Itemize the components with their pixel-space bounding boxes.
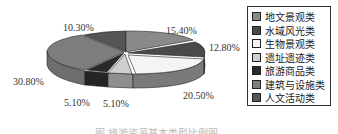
legend-item: 地文景观类 (252, 10, 327, 24)
slice-side-commodities (85, 71, 108, 87)
legend-swatch (252, 66, 261, 75)
legend-swatch (252, 39, 261, 48)
label-biological: 20.50% (183, 90, 214, 101)
legend-item: 水域风光类 (252, 24, 327, 38)
label-landform: 15.40% (166, 25, 197, 36)
legend-swatch (252, 53, 261, 62)
legend-swatch (252, 93, 261, 102)
label-humanistic: 10.30% (63, 22, 94, 33)
legend-swatch (252, 26, 261, 35)
legend-item: 建筑与设施类 (252, 78, 327, 92)
legend-item: 生物景观类 (252, 37, 327, 51)
legend-swatch (252, 12, 261, 21)
legend-swatch (252, 80, 261, 89)
label-relics: 5.10% (103, 98, 129, 109)
chart-legend: 地文景观类 水域风光类 生物景观类 遗址遗迹类 旅游商品类 建筑与设施类 人文活… (247, 6, 331, 106)
slice-side-relics (108, 73, 133, 88)
legend-item: 人文活动类 (252, 91, 327, 105)
figure-caption: 图 旅游资源基本类型比例图 (95, 125, 218, 134)
legend-label: 人文活动类 (265, 90, 315, 105)
legend-item: 旅游商品类 (252, 64, 327, 78)
label-commodities: 5.10% (64, 97, 90, 108)
label-water: 12.80% (209, 42, 240, 53)
legend-item: 遗址遗迹类 (252, 51, 327, 65)
label-architecture: 30.80% (13, 76, 44, 87)
